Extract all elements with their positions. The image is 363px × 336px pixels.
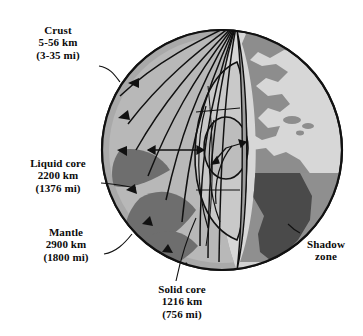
- label-crust: Crust 5-56 km (3-35 mi): [6, 24, 110, 61]
- leader-crust: [99, 66, 120, 82]
- label-solid-core: Solid core 1216 km (756 mi): [122, 283, 242, 320]
- label-solid-core-name: Solid core: [122, 283, 242, 295]
- label-crust-km: 5-56 km: [6, 36, 110, 48]
- label-crust-mi: (3-35 mi): [6, 49, 110, 61]
- label-liquid-core: Liquid core 2200 km (1376 mi): [0, 157, 116, 194]
- label-solid-core-km: 1216 km: [122, 295, 242, 307]
- label-shadow-zone-line1: Shadow: [292, 238, 360, 250]
- label-mantle-name: Mantle: [12, 226, 120, 238]
- label-shadow-zone-line2: zone: [292, 250, 360, 262]
- label-liquid-core-mi: (1376 mi): [0, 182, 116, 194]
- label-mantle-mi: (1800 mi): [12, 251, 120, 263]
- label-mantle-km: 2900 km: [12, 238, 120, 250]
- label-liquid-core-km: 2200 km: [0, 169, 116, 181]
- label-solid-core-mi: (756 mi): [122, 308, 242, 320]
- label-crust-name: Crust: [6, 24, 110, 36]
- label-shadow-zone: Shadow zone: [292, 238, 360, 263]
- earth-cutaway-figure: Crust 5-56 km (3-35 mi) Liquid core 2200…: [0, 0, 363, 336]
- label-mantle: Mantle 2900 km (1800 mi): [12, 226, 120, 263]
- label-liquid-core-name: Liquid core: [0, 157, 116, 169]
